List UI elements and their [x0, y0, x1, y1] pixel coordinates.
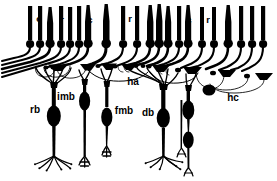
label-cone-2: c: [87, 14, 92, 25]
label-ha: ha: [127, 76, 139, 87]
label-cone-3: c: [186, 14, 191, 25]
rb-soma: [47, 106, 61, 127]
imb-soma: [79, 92, 90, 111]
retina-circuit-figure: c r c r c r rb imb fmb db ha hc: [0, 0, 277, 181]
label-rod-1: r: [60, 14, 64, 25]
label-hc: hc: [227, 92, 239, 103]
label-rod-2: r: [128, 13, 132, 24]
label-rod-3: r: [206, 14, 210, 25]
horizontal-cell-body: [203, 85, 216, 96]
label-imb: imb: [57, 91, 75, 102]
fmb-soma: [101, 108, 112, 127]
label-rb: rb: [30, 104, 40, 115]
label-fmb: fmb: [115, 105, 133, 116]
label-cone-1: c: [36, 13, 41, 24]
label-db: db: [142, 107, 154, 118]
retina-diagram-svg: c r c r c r rb imb fmb db ha hc: [0, 0, 277, 181]
db-soma: [157, 108, 170, 128]
